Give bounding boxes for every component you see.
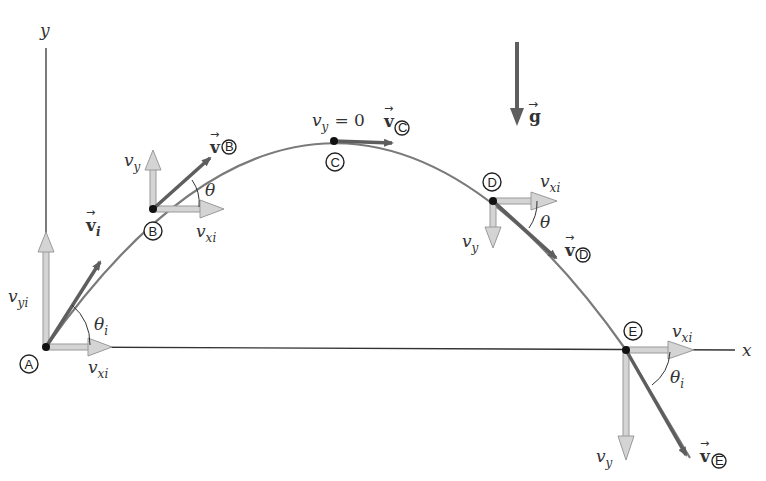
point-b-velocity-subscript: B [225, 139, 234, 154]
point-d-label: D [488, 175, 497, 190]
point-c-dot [330, 137, 338, 145]
point-d-velocity-subscript: D [579, 247, 588, 262]
point-b-vy-label: vy [124, 150, 141, 174]
point-e-dot [622, 346, 630, 354]
point-b-theta-label: θ [205, 180, 215, 200]
point-c-velocity-subscript: C [398, 120, 407, 135]
projectile-diagram: y x g → vyi vxi θi vi → vy vxi θ v → B [0, 0, 766, 481]
vector-arrow-icon: → [700, 437, 709, 450]
point-b-dot [149, 205, 157, 213]
point-a-label: A [25, 357, 34, 372]
point-a-components [38, 232, 112, 356]
point-e-vy-label: vy [596, 446, 613, 470]
trajectory-curve [46, 143, 690, 458]
point-e-velocity-subscript: E [715, 453, 724, 468]
y-axis-label: y [39, 20, 50, 40]
point-b-vxi-label: vxi [196, 221, 216, 245]
point-a-theta-label: θi [94, 314, 108, 338]
point-a-dot [42, 343, 50, 351]
gravity-vector-arrow-icon: → [528, 97, 538, 111]
axes: y x [39, 20, 752, 360]
point-d-vxi-label: vxi [540, 171, 560, 195]
point-d-dot [489, 197, 497, 205]
point-b-label: B [149, 224, 158, 239]
point-e-vxi-label: vxi [672, 321, 692, 345]
vector-arrow-icon: → [565, 231, 574, 244]
gravity-vector: g → [510, 42, 541, 126]
point-d-theta-label: θ [540, 212, 550, 232]
point-d-vy-label: vy [462, 231, 479, 255]
point-c-components [334, 141, 392, 143]
point-c-vy-zero-label: vy= 0 [312, 110, 365, 134]
vector-arrow-icon: → [86, 206, 95, 219]
x-axis-label: x [742, 340, 752, 360]
point-a-vyi-label: vyi [8, 286, 28, 310]
point-e-components [618, 341, 694, 460]
point-c-label: C [331, 155, 340, 170]
point-e-label: E [629, 324, 638, 339]
point-a-vxi-label: vxi [88, 357, 108, 381]
point-e-theta-label: θi [670, 367, 684, 391]
vector-arrow-icon: → [210, 128, 219, 141]
vector-arrow-icon: → [384, 102, 393, 115]
